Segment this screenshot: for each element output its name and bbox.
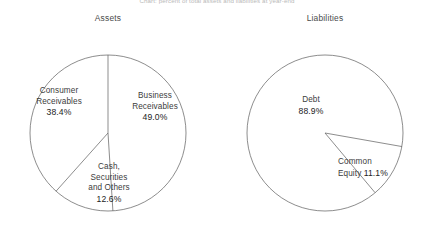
slice-value-cash-securities-others: 12.6% — [66, 194, 152, 205]
slice-value-debt: 88.9% — [268, 106, 354, 117]
slice-label-common-equity: Common Equity 11.1% — [338, 157, 424, 179]
slice-label-cash-line2: Securities — [66, 173, 152, 184]
slice-label-business-line2: Receivables — [112, 102, 198, 113]
slice-value-business-receivables: 49.0% — [112, 112, 198, 123]
slice-label-cash-line1: Cash, — [66, 162, 152, 173]
slice-label-consumer-line2: Receivables — [16, 97, 102, 108]
pie-liabilities-spoke-debt-equity — [325, 133, 402, 147]
slice-label-cash-securities-others: Cash, Securities and Others 12.6% — [66, 162, 152, 204]
slice-label-business-line1: Business — [112, 91, 198, 102]
slice-label-debt-line1: Debt — [268, 95, 354, 106]
figure-container: Chart: percent of total assets and liabi… — [0, 0, 434, 236]
slice-value-common-equity: 11.1% — [364, 168, 388, 178]
slice-label-business-receivables: Business Receivables 49.0% — [112, 91, 198, 123]
slice-value-consumer-receivables: 38.4% — [16, 107, 102, 118]
slice-label-equity-line1: Common — [338, 157, 424, 168]
slice-label-consumer-receivables: Consumer Receivables 38.4% — [16, 86, 102, 118]
slice-label-equity-line2: Equity — [338, 169, 361, 178]
slice-label-cash-line3: and Others — [66, 183, 152, 194]
slice-label-consumer-line1: Consumer — [16, 86, 102, 97]
pie-liabilities — [247, 55, 403, 211]
slice-label-debt: Debt 88.9% — [268, 95, 354, 116]
